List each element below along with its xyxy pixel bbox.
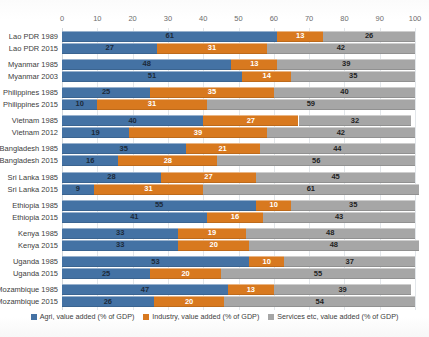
- bar-segment-industry[interactable]: 20: [178, 240, 249, 251]
- bar-segment-industry[interactable]: 13: [231, 59, 277, 70]
- bar-segment-agri[interactable]: 41: [62, 212, 207, 223]
- bar-segment-services[interactable]: 37: [284, 256, 415, 267]
- bar-row[interactable]: 103159: [62, 99, 415, 110]
- bar-segment-services[interactable]: 35: [291, 200, 415, 211]
- bar-row[interactable]: 332048: [62, 240, 415, 251]
- bar-segment-industry[interactable]: 19: [178, 228, 245, 239]
- bar-segment-services[interactable]: 44: [260, 143, 415, 154]
- bar-segment-industry[interactable]: 27: [161, 172, 256, 183]
- bar-row[interactable]: 511435: [62, 71, 415, 82]
- bar-segment-industry[interactable]: 39: [129, 127, 267, 138]
- bar-segment-industry[interactable]: 16: [207, 212, 263, 223]
- bar-segment-agri[interactable]: 33: [62, 228, 178, 239]
- bar-segment-services[interactable]: 48: [246, 228, 415, 239]
- bar-segment-industry[interactable]: 13: [228, 284, 274, 295]
- bar-value-label: 54: [316, 298, 324, 306]
- bar-value-label: 47: [141, 286, 149, 294]
- bar-segment-industry[interactable]: 10: [256, 200, 291, 211]
- bar-segment-services[interactable]: 40: [274, 87, 415, 98]
- bar-segment-agri[interactable]: 27: [62, 43, 157, 54]
- bar-row[interactable]: 481339: [62, 59, 415, 70]
- bar-row[interactable]: 331948: [62, 228, 415, 239]
- bar-segment-services[interactable]: 56: [217, 155, 415, 166]
- bar-value-label: 13: [247, 286, 255, 294]
- bar-segment-industry[interactable]: 14: [242, 71, 291, 82]
- bar-segment-services[interactable]: 35: [291, 71, 415, 82]
- bar-segment-industry[interactable]: 27: [203, 115, 298, 126]
- bar-row[interactable]: 282745: [62, 172, 415, 183]
- bar-segment-agri[interactable]: 51: [62, 71, 242, 82]
- bar-segment-agri[interactable]: 53: [62, 256, 249, 267]
- bar-row[interactable]: 611326: [62, 31, 415, 42]
- bar-segment-services[interactable]: 43: [263, 212, 415, 223]
- bar-segment-services[interactable]: 42: [267, 127, 415, 138]
- bar-row[interactable]: 273142: [62, 43, 415, 54]
- bar-value-label: 31: [144, 185, 152, 193]
- bar-segment-agri[interactable]: 16: [62, 155, 118, 166]
- bar-segment-agri[interactable]: 10: [62, 99, 97, 110]
- bar-row[interactable]: 262054: [62, 296, 415, 307]
- x-axis-tick-70: 70: [305, 14, 313, 23]
- x-axis-tick-40: 40: [199, 14, 207, 23]
- bar-segment-agri[interactable]: 33: [62, 240, 178, 251]
- bar-row[interactable]: 93161: [62, 184, 415, 195]
- bar-segment-agri[interactable]: 47: [62, 284, 228, 295]
- bar-row[interactable]: 471339: [62, 284, 415, 295]
- bar-segment-agri[interactable]: 25: [62, 87, 150, 98]
- bar-row[interactable]: 411643: [62, 212, 415, 223]
- bar-value-label: 39: [194, 129, 202, 137]
- category-label: Lao PDR 1989: [9, 31, 58, 42]
- bar-segment-agri[interactable]: 48: [62, 59, 231, 70]
- bar-value-label: 13: [250, 60, 258, 68]
- bar-segment-agri[interactable]: 25: [62, 268, 150, 279]
- bar-row[interactable]: 531037: [62, 256, 415, 267]
- bar-segment-industry[interactable]: 31: [157, 43, 266, 54]
- bar-segment-industry[interactable]: 10: [249, 256, 284, 267]
- bar-row[interactable]: 193942: [62, 127, 415, 138]
- bar-segment-industry[interactable]: 21: [186, 143, 260, 154]
- bar-segment-agri[interactable]: 9: [62, 184, 94, 195]
- bar-value-label: 31: [148, 100, 156, 108]
- bar-segment-industry[interactable]: 28: [118, 155, 217, 166]
- bar-segment-services[interactable]: 59: [207, 99, 415, 110]
- legend-swatch-industry-icon: [143, 314, 149, 320]
- bar-row[interactable]: 252055: [62, 268, 415, 279]
- bar-segment-services[interactable]: 42: [267, 43, 415, 54]
- category-label: Ethiopia 1985: [12, 200, 58, 211]
- bar-segment-industry[interactable]: 31: [97, 99, 206, 110]
- bar-row[interactable]: 253540: [62, 87, 415, 98]
- bar-segment-services[interactable]: 45: [256, 172, 415, 183]
- bar-row[interactable]: 551035: [62, 200, 415, 211]
- bar-segment-services[interactable]: 39: [274, 284, 412, 295]
- bar-segment-industry[interactable]: 20: [150, 268, 221, 279]
- bar-segment-agri[interactable]: 40: [62, 115, 203, 126]
- category-label: Sri Lanka 2015: [8, 184, 58, 195]
- bar-value-label: 44: [333, 145, 341, 153]
- bar-segment-services[interactable]: 55: [221, 268, 415, 279]
- bar-segment-services[interactable]: 39: [277, 59, 415, 70]
- bar-value-label: 27: [247, 117, 255, 125]
- bar-segment-agri[interactable]: 28: [62, 172, 161, 183]
- bar-segment-agri[interactable]: 61: [62, 31, 277, 42]
- bar-value-label: 25: [102, 270, 110, 278]
- bar-segment-agri[interactable]: 35: [62, 143, 186, 154]
- bar-row[interactable]: 352144: [62, 143, 415, 154]
- bar-value-label: 56: [312, 157, 320, 165]
- bar-row[interactable]: 402732: [62, 115, 415, 126]
- bar-segment-services[interactable]: 26: [323, 31, 415, 42]
- bar-segment-industry[interactable]: 20: [154, 296, 225, 307]
- bar-segment-services[interactable]: 32: [299, 115, 412, 126]
- bar-segment-agri[interactable]: 55: [62, 200, 256, 211]
- legend-item-services: Services etc, value added (% of GDP): [268, 312, 398, 321]
- bar-segment-agri[interactable]: 19: [62, 127, 129, 138]
- bar-segment-services[interactable]: 61: [203, 184, 418, 195]
- bar-segment-industry[interactable]: 31: [94, 184, 203, 195]
- bar-segment-services[interactable]: 54: [224, 296, 415, 307]
- bar-segment-services[interactable]: 48: [249, 240, 418, 251]
- bar-segment-industry[interactable]: 13: [277, 31, 323, 42]
- bar-segment-industry[interactable]: 35: [150, 87, 274, 98]
- bar-row[interactable]: 162856: [62, 155, 415, 166]
- bar-value-label: 27: [105, 44, 113, 52]
- x-axis: 0102030405060708090100: [62, 14, 415, 28]
- bar-segment-agri[interactable]: 26: [62, 296, 154, 307]
